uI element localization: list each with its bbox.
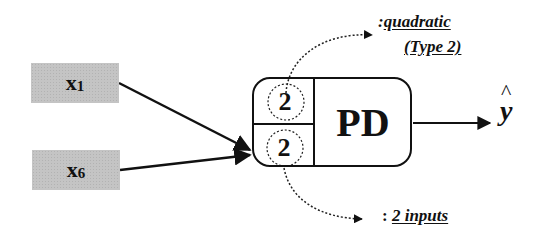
input-node-x1: x1: [31, 63, 119, 103]
annotation-bottom-colon: :: [382, 206, 392, 225]
annotation-top-line2-wrap: (Type 2): [404, 37, 461, 57]
annotation-top-line2: (Type 2): [404, 37, 461, 56]
annotation-top-line1: quadratic: [384, 12, 451, 31]
annotation-top: :quadratic: [378, 12, 451, 32]
annotation-bottom-text: 2 inputs: [392, 206, 448, 225]
output-y-hat: ^ y: [500, 95, 512, 127]
annotation-arrow-bottom: [284, 168, 362, 219]
pd-label: PD: [314, 77, 412, 167]
input-var: x: [67, 157, 78, 183]
input-subscript: 6: [78, 165, 86, 182]
input-subscript: 1: [77, 78, 85, 95]
annotation-bottom: : 2 inputs: [382, 206, 448, 226]
input-var: x: [66, 70, 77, 96]
input-node-x6: x6: [32, 150, 120, 190]
node-inputs-value: 2: [253, 125, 315, 171]
node-type-value: 2: [254, 79, 316, 125]
edge-x6-to-node: [120, 155, 250, 170]
hat-symbol: ^: [501, 79, 511, 105]
edge-x1-to-node: [119, 83, 250, 150]
